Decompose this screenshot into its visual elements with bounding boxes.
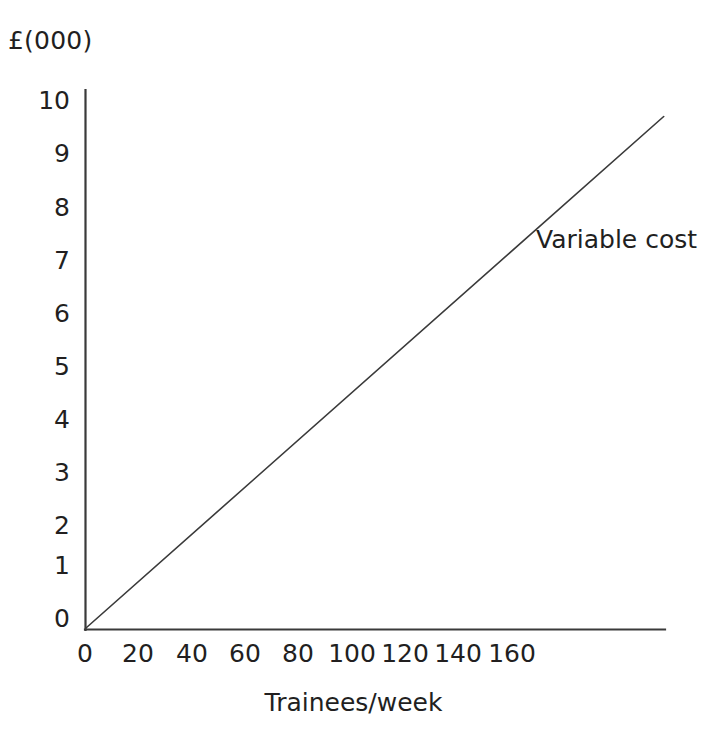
variable-cost-chart: £(000) 10 9 8 7 6 5 4 3 2 1 0 0 20 40 60… — [0, 0, 707, 729]
y-axis-title: £(000) — [8, 26, 92, 55]
y-tick-label-2: 2 — [8, 513, 70, 538]
y-tick-label-4: 4 — [8, 407, 70, 432]
y-tick-label-1: 1 — [8, 553, 70, 578]
variable-cost-annotation: Variable cost — [536, 227, 697, 252]
y-tick-label-7: 7 — [8, 248, 70, 273]
y-tick-label-5: 5 — [8, 354, 70, 379]
x-tick-label-160: 160 — [467, 641, 557, 666]
chart-plot-area — [0, 0, 707, 729]
y-tick-label-10: 10 — [8, 88, 70, 113]
y-tick-label-8: 8 — [8, 195, 70, 220]
y-tick-label-9: 9 — [8, 141, 70, 166]
y-tick-label-3: 3 — [8, 460, 70, 485]
x-axis-title: Trainees/week — [0, 690, 707, 715]
y-tick-label-6: 6 — [8, 301, 70, 326]
variable-cost-line — [86, 117, 664, 629]
y-tick-label-0: 0 — [8, 606, 70, 631]
